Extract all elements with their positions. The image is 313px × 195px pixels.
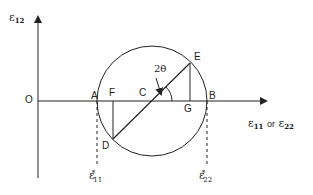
angle-label: 2θ <box>154 64 166 74</box>
point-B-label: B <box>209 91 216 101</box>
principal-strain-22-label: ε*22 <box>199 170 217 181</box>
angle-arc <box>166 87 172 101</box>
point-C-label: C <box>139 88 146 98</box>
subscript: 11 <box>254 122 264 131</box>
point-F-label: F <box>109 88 115 98</box>
subscript: 22 <box>284 122 294 131</box>
connector-text: or <box>267 119 275 129</box>
origin-label: O <box>25 95 33 105</box>
mohr-circle-diagram <box>0 0 313 195</box>
epsilon-symbol: ε <box>9 11 15 24</box>
point-G-label: G <box>184 104 192 114</box>
point-D-label: D <box>102 141 109 151</box>
epsilon-symbol: ε <box>248 117 254 130</box>
point-E-label: E <box>194 52 201 62</box>
subscript: 11 <box>93 176 102 184</box>
subscript: 12 <box>15 16 25 25</box>
principal-strain-11-label: ε*11 <box>89 170 107 181</box>
y-axis-label: ε12 <box>9 12 24 23</box>
x-axis-label: ε11 or ε22 <box>248 118 294 129</box>
point-A-label: A <box>91 91 98 101</box>
subscript: 22 <box>203 176 212 184</box>
angle-pointer-arrow <box>156 78 161 94</box>
